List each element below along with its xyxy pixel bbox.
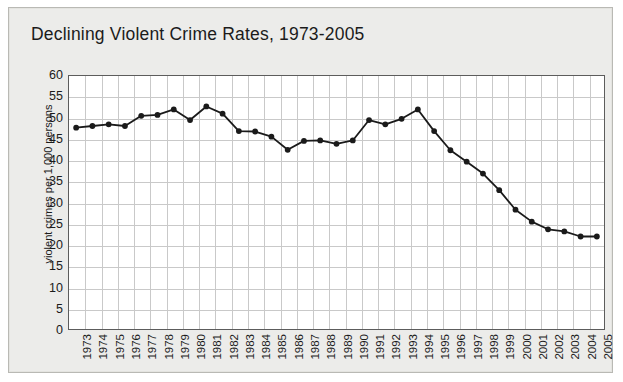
x-tick-label: 1973 — [81, 334, 93, 360]
y-tick-label: 0 — [23, 323, 63, 337]
x-tick-label: 2004 — [586, 334, 598, 360]
x-tick-label: 1984 — [260, 334, 272, 360]
x-tick-label: 2000 — [521, 334, 533, 360]
data-point-marker — [334, 141, 340, 147]
y-tick-label: 10 — [23, 281, 63, 295]
y-tick-label: 45 — [23, 132, 63, 146]
x-tick-label: 1993 — [407, 334, 419, 360]
y-tick-label: 30 — [23, 196, 63, 210]
y-tick-label: 55 — [23, 89, 63, 103]
data-point-marker — [236, 128, 242, 134]
x-tick-label: 1974 — [97, 334, 109, 360]
data-point-marker — [350, 138, 356, 144]
data-point-marker — [529, 219, 535, 225]
crime-rate-series — [68, 75, 605, 330]
data-point-marker — [155, 112, 161, 118]
data-point-marker — [187, 117, 193, 123]
x-tick-label: 1989 — [342, 334, 354, 360]
chart-title: Declining Violent Crime Rates, 1973-2005 — [31, 24, 365, 45]
y-tick-label: 25 — [23, 217, 63, 231]
chart-figure: Declining Violent Crime Rates, 1973-2005… — [0, 0, 623, 382]
series-line — [76, 106, 597, 236]
x-tick-label: 1975 — [114, 334, 126, 360]
x-tick-label: 1978 — [163, 334, 175, 360]
x-tick-label: 1979 — [179, 334, 191, 360]
x-tick-label: 1998 — [488, 334, 500, 360]
data-point-marker — [90, 123, 96, 129]
data-point-marker — [220, 111, 226, 117]
data-point-marker — [138, 113, 144, 119]
data-point-marker — [545, 226, 551, 232]
x-tick-label: 1990 — [358, 334, 370, 360]
data-point-marker — [382, 121, 388, 127]
x-tick-label: 2005 — [602, 334, 614, 360]
data-point-marker — [285, 147, 291, 153]
x-axis-ticks: 1973197419751976197719781979198019811982… — [68, 334, 605, 382]
x-tick-label: 1977 — [146, 334, 158, 360]
x-tick-label: 1994 — [423, 334, 435, 360]
x-tick-label: 1992 — [390, 334, 402, 360]
chart-card: Declining Violent Crime Rates, 1973-2005… — [8, 7, 613, 373]
y-tick-label: 60 — [23, 68, 63, 82]
x-tick-label: 2003 — [569, 334, 581, 360]
data-point-marker — [122, 123, 128, 129]
x-tick-label: 1986 — [293, 334, 305, 360]
data-point-marker — [431, 128, 437, 134]
data-point-marker — [317, 138, 323, 144]
x-tick-label: 2001 — [537, 334, 549, 360]
x-tick-label: 1999 — [504, 334, 516, 360]
data-point-marker — [399, 116, 405, 122]
data-point-marker — [203, 104, 209, 110]
x-tick-label: 1985 — [276, 334, 288, 360]
x-tick-label: 1980 — [195, 334, 207, 360]
y-tick-label: 5 — [23, 302, 63, 316]
data-point-marker — [594, 234, 600, 240]
x-tick-label: 2002 — [553, 334, 565, 360]
data-point-marker — [73, 125, 79, 131]
data-point-marker — [561, 229, 567, 235]
x-tick-label: 1991 — [374, 334, 386, 360]
y-tick-label: 50 — [23, 111, 63, 125]
data-point-marker — [513, 207, 519, 213]
data-point-marker — [415, 107, 421, 113]
x-tick-label: 1995 — [439, 334, 451, 360]
data-point-marker — [269, 134, 275, 140]
x-tick-label: 1988 — [325, 334, 337, 360]
data-point-marker — [252, 129, 258, 135]
x-tick-label: 1997 — [472, 334, 484, 360]
data-point-marker — [106, 121, 112, 127]
data-point-marker — [464, 159, 470, 165]
y-axis-ticks: 051015202530354045505560 — [21, 75, 63, 330]
y-tick-label: 20 — [23, 238, 63, 252]
y-tick-label: 15 — [23, 259, 63, 273]
x-tick-label: 1983 — [244, 334, 256, 360]
data-point-marker — [366, 117, 372, 123]
data-point-marker — [578, 234, 584, 240]
x-tick-label: 1982 — [228, 334, 240, 360]
data-point-marker — [480, 171, 486, 177]
data-point-marker — [448, 147, 454, 153]
x-tick-label: 1996 — [455, 334, 467, 360]
y-tick-label: 40 — [23, 153, 63, 167]
x-tick-label: 1987 — [309, 334, 321, 360]
data-point-marker — [301, 138, 307, 144]
x-tick-label: 1976 — [130, 334, 142, 360]
data-point-marker — [171, 107, 177, 113]
y-tick-label: 35 — [23, 174, 63, 188]
x-tick-label: 1981 — [211, 334, 223, 360]
data-point-marker — [496, 187, 502, 193]
